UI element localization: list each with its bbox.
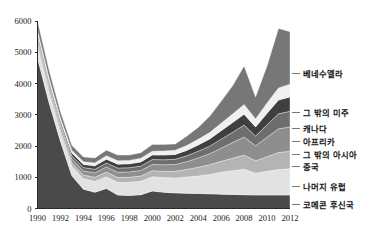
legend-label-7: 코메콘 후신국	[303, 200, 354, 210]
x-tick-label: 2006	[213, 213, 230, 223]
y-tick-label: 5000	[15, 47, 32, 57]
y-axis-ticks: 0100020003000400050006000	[15, 16, 38, 214]
x-tick-label: 2004	[190, 213, 208, 223]
x-tick-label: 1998	[121, 213, 138, 223]
x-tick-label: 1996	[98, 213, 115, 223]
legend-label-2: 캐나다	[303, 124, 327, 134]
legend-label-5: 중국	[303, 162, 319, 172]
x-axis-ticks: 1990199219941996199820002002200420062008…	[29, 213, 299, 223]
legend-label-6: 나머지 유럽	[303, 182, 346, 192]
x-tick-label: 2000	[144, 213, 161, 223]
x-tick-label: 2010	[259, 213, 276, 223]
y-tick-label: 0	[27, 204, 31, 214]
x-tick-label: 2008	[236, 213, 253, 223]
chart-canvas: 0100020003000400050006000 19901992199419…	[0, 0, 371, 241]
legend-group: 베네수엘라그 밖의 미주캐나다아프리카그 밖의 아시아중국나머지 유럽코메콘 후…	[292, 69, 357, 210]
y-tick-label: 1000	[15, 172, 32, 182]
legend-label-4: 그 밖의 아시아	[303, 150, 357, 160]
x-tick-label: 2012	[282, 213, 299, 223]
y-tick-label: 2000	[15, 141, 32, 151]
stacked-area-series-group	[38, 21, 291, 209]
y-tick-label: 4000	[15, 79, 32, 89]
x-tick-label: 2002	[167, 213, 184, 223]
legend-label-3: 아프리카	[303, 137, 335, 147]
x-tick-label: 1992	[52, 213, 69, 223]
stacked-area-chart: 0100020003000400050006000 19901992199419…	[0, 0, 371, 241]
x-tick-label: 1994	[75, 213, 93, 223]
y-tick-label: 3000	[15, 110, 32, 120]
legend-label-0: 베네수엘라	[303, 69, 343, 79]
x-tick-label: 1990	[29, 213, 46, 223]
legend-label-1: 그 밖의 미주	[303, 108, 349, 118]
y-tick-label: 6000	[15, 16, 32, 26]
